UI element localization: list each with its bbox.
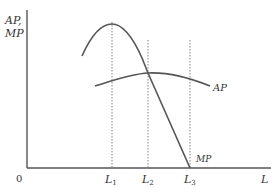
y-axis-label-line2: MP xyxy=(4,27,24,40)
origin-label: 0 xyxy=(16,173,22,184)
chart: AP, MP 0 L1 L2 L3 L AP MP xyxy=(0,0,277,189)
mp-curve xyxy=(82,24,190,168)
x-axis-label: L xyxy=(260,173,268,186)
mp-curve-label: MP xyxy=(195,154,212,164)
tick-l3: L3 xyxy=(183,173,196,187)
tick-l1: L1 xyxy=(104,173,117,187)
y-axis-label-line1: AP, xyxy=(4,14,22,27)
ap-curve-label: AP xyxy=(212,82,227,93)
tick-l2: L2 xyxy=(141,173,154,187)
